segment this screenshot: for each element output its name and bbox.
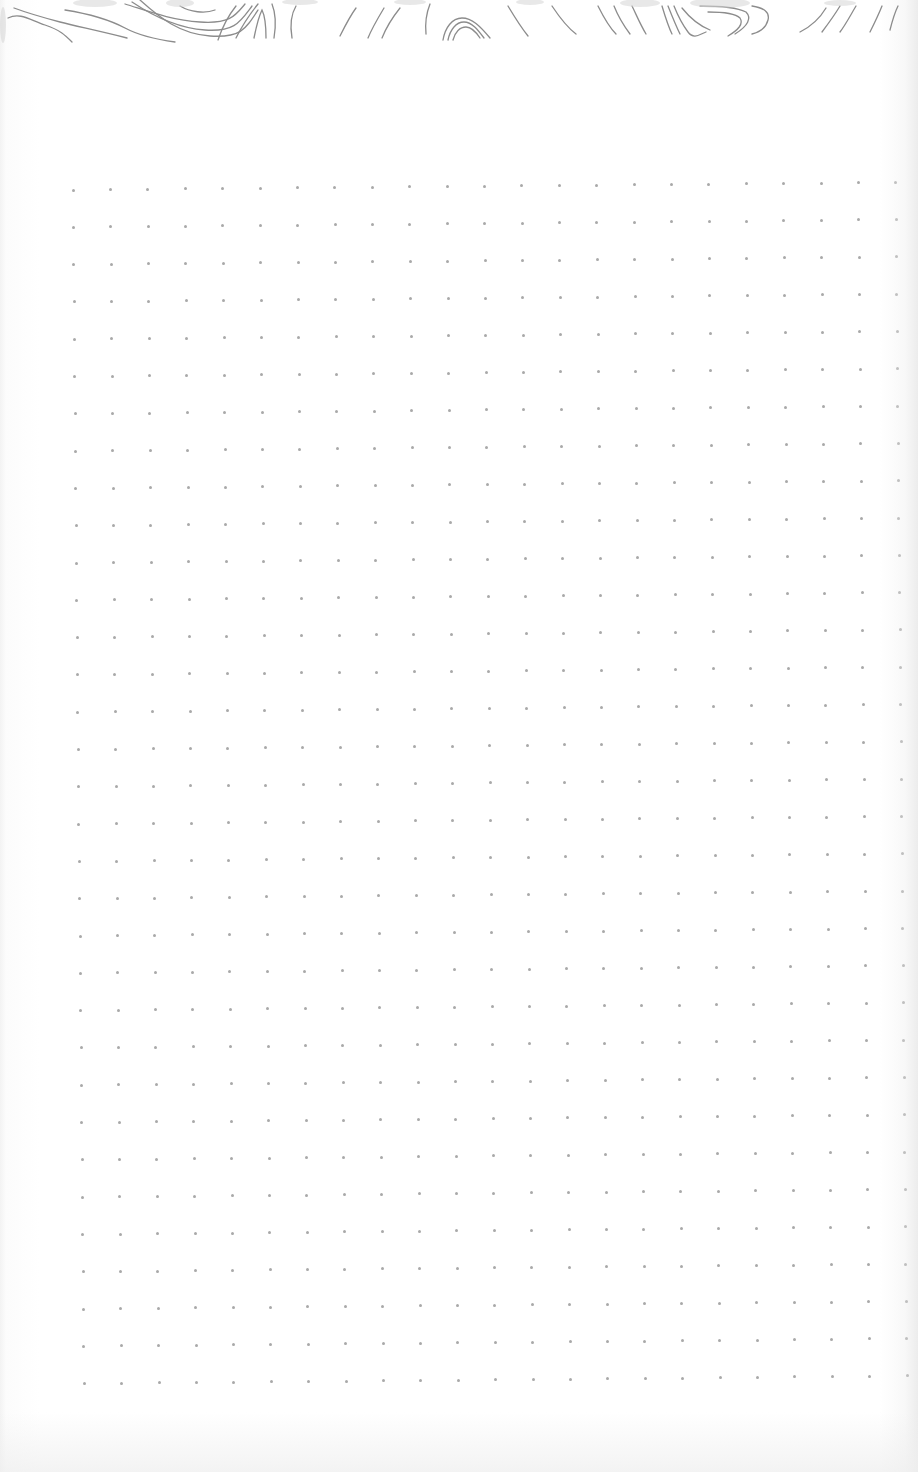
grid-dot	[825, 778, 828, 781]
grid-dot	[791, 1077, 794, 1080]
contour-lines-icon	[0, 0, 918, 50]
grid-dot	[485, 446, 488, 449]
grid-dot	[528, 968, 531, 971]
grid-dot	[340, 857, 343, 860]
grid-dot	[828, 1077, 831, 1080]
grid-dot	[824, 704, 827, 707]
grid-dot	[602, 967, 605, 970]
grid-dot	[184, 225, 187, 228]
grid-dot	[672, 444, 675, 447]
grid-dot	[231, 1194, 234, 1197]
grid-dot	[457, 1379, 460, 1382]
grid-dot	[75, 562, 78, 565]
grid-dot	[261, 448, 264, 451]
grid-dot	[343, 1230, 346, 1233]
grid-dot	[903, 1151, 906, 1154]
grid-dot	[715, 966, 718, 969]
grid-dot	[374, 559, 377, 562]
grid-dot	[297, 261, 300, 264]
grid-dot	[267, 1119, 270, 1122]
page-shadow	[0, 1412, 918, 1472]
grid-dot	[821, 293, 824, 296]
grid-dot	[259, 224, 262, 227]
grid-dot	[270, 1380, 273, 1383]
grid-dot	[681, 1377, 684, 1380]
grid-dot	[447, 372, 450, 375]
grid-dot	[785, 480, 788, 483]
grid-dot	[755, 1264, 758, 1267]
grid-dot	[301, 709, 304, 712]
grid-dot	[866, 1114, 869, 1117]
grid-dot	[568, 1228, 571, 1231]
grid-dot	[640, 967, 643, 970]
grid-dot	[524, 595, 527, 598]
grid-dot	[113, 673, 116, 676]
grid-dot	[266, 933, 269, 936]
grid-dot	[825, 816, 828, 819]
grid-dot	[188, 635, 191, 638]
grid-dot	[228, 933, 231, 936]
grid-dot	[643, 1302, 646, 1305]
grid-dot	[120, 1382, 123, 1385]
grid-dot	[379, 1081, 382, 1084]
grid-dot	[714, 891, 717, 894]
grid-dot	[115, 822, 118, 825]
grid-dot	[904, 1263, 907, 1266]
grid-dot	[269, 1306, 272, 1309]
grid-dot	[752, 966, 755, 969]
grid-dot	[526, 781, 529, 784]
notebook-page: dot-grid-notebook-page	[0, 0, 918, 1472]
grid-dot	[77, 748, 80, 751]
grid-dot	[521, 259, 524, 262]
grid-dot	[450, 707, 453, 710]
grid-dot	[791, 1114, 794, 1117]
grid-dot	[494, 1341, 497, 1344]
grid-dot	[411, 521, 414, 524]
grid-dot	[419, 1342, 422, 1345]
grid-dot	[342, 1156, 345, 1159]
grid-dot	[599, 631, 602, 634]
grid-dot	[522, 334, 525, 337]
grid-dot	[266, 1007, 269, 1010]
grid-dot	[413, 745, 416, 748]
grid-dot	[299, 559, 302, 562]
grid-dot	[487, 632, 490, 635]
grid-dot	[716, 1152, 719, 1155]
grid-dot	[154, 971, 157, 974]
grid-dot	[298, 373, 301, 376]
grid-dot	[82, 1308, 85, 1311]
grid-dot	[595, 184, 598, 187]
grid-dot	[187, 523, 190, 526]
grid-dot	[868, 1375, 871, 1378]
grid-dot	[522, 371, 525, 374]
grid-dot	[566, 1042, 569, 1045]
grid-dot	[529, 1080, 532, 1083]
grid-dot	[599, 557, 602, 560]
grid-dot	[110, 263, 113, 266]
grid-dot	[860, 554, 863, 557]
grid-dot	[868, 1337, 871, 1340]
grid-dot	[826, 853, 829, 856]
grid-dot	[859, 442, 862, 445]
grid-dot	[262, 560, 265, 563]
grid-dot	[866, 1151, 869, 1154]
grid-dot	[344, 1305, 347, 1308]
grid-dot	[673, 556, 676, 559]
grid-dot	[409, 260, 412, 263]
grid-dot	[711, 556, 714, 559]
grid-dot	[676, 780, 679, 783]
grid-dot	[335, 335, 338, 338]
grid-dot	[525, 632, 528, 635]
grid-dot	[193, 1195, 196, 1198]
grid-dot	[900, 778, 903, 781]
grid-dot	[192, 1045, 195, 1048]
grid-dot	[749, 667, 752, 670]
grid-dot	[259, 187, 262, 190]
grid-dot	[189, 747, 192, 750]
grid-dot	[793, 1301, 796, 1304]
grid-dot	[147, 225, 150, 228]
grid-dot	[263, 672, 266, 675]
grid-dot	[563, 781, 566, 784]
grid-dot	[522, 408, 525, 411]
grid-dot	[150, 561, 153, 564]
